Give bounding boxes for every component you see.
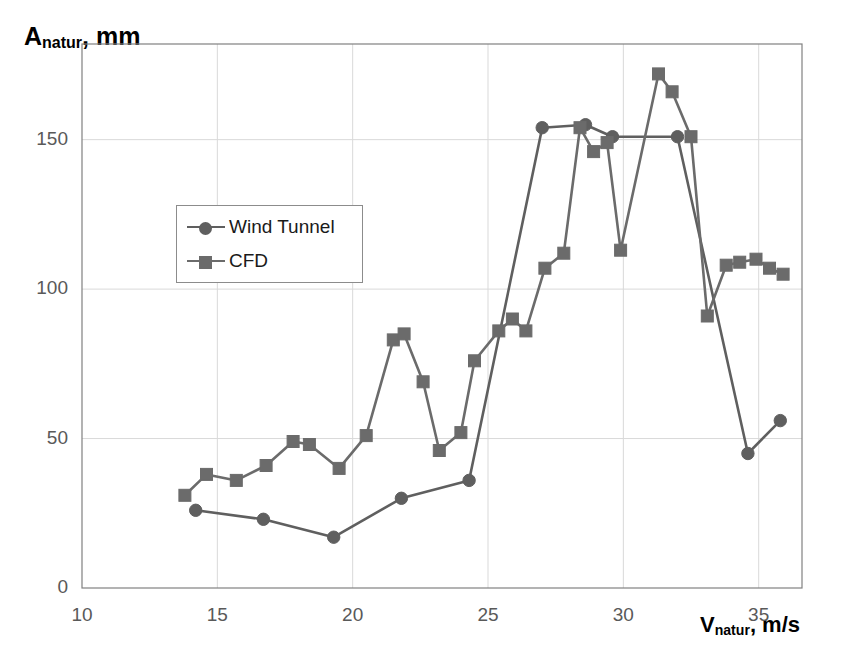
- plot-frame: [82, 44, 802, 588]
- data-point-marker: [333, 462, 345, 474]
- chart-container: Anatur, mm Vnatur, m/s 05010015010152025…: [0, 0, 849, 664]
- data-point-marker: [303, 439, 315, 451]
- data-point-marker: [539, 262, 551, 274]
- data-point-marker: [774, 414, 786, 426]
- data-point-marker: [666, 86, 678, 98]
- data-point-marker: [201, 468, 213, 480]
- x-axis-tick-label: 25: [448, 604, 528, 626]
- chart-legend: Wind Tunnel CFD: [176, 205, 363, 283]
- data-point-marker: [653, 68, 665, 80]
- data-point-marker: [734, 256, 746, 268]
- x-axis-tick-label: 30: [583, 604, 663, 626]
- data-point-marker: [588, 146, 600, 158]
- data-point-marker: [750, 253, 762, 265]
- data-point-marker: [455, 427, 467, 439]
- data-point-marker: [469, 355, 481, 367]
- data-point-marker: [190, 504, 202, 516]
- legend-item-cfd: CFD: [187, 248, 268, 274]
- data-point-marker: [720, 259, 732, 271]
- data-point-marker: [536, 122, 548, 134]
- data-point-marker: [764, 262, 776, 274]
- legend-label: Wind Tunnel: [229, 216, 335, 238]
- y-axis-tick-label: 0: [0, 576, 68, 598]
- x-axis-tick-label: 35: [719, 604, 799, 626]
- x-axis-tick-label: 15: [177, 604, 257, 626]
- data-point-marker: [433, 445, 445, 457]
- data-point-marker: [287, 436, 299, 448]
- data-point-marker: [615, 244, 627, 256]
- data-point-marker: [398, 328, 410, 340]
- data-point-marker: [257, 513, 269, 525]
- y-axis-tick-label: 150: [0, 128, 68, 150]
- y-axis-tick-label: 50: [0, 427, 68, 449]
- plot-area: [0, 0, 849, 664]
- data-point-marker: [230, 474, 242, 486]
- x-axis-tick-label: 10: [42, 604, 122, 626]
- data-point-marker: [387, 334, 399, 346]
- data-point-marker: [558, 247, 570, 259]
- data-point-marker: [777, 268, 789, 280]
- data-point-marker: [601, 137, 613, 149]
- data-point-marker: [260, 460, 272, 472]
- data-point-marker: [493, 325, 505, 337]
- data-point-marker: [417, 376, 429, 388]
- x-axis-tick-label: 20: [313, 604, 393, 626]
- data-point-marker: [742, 447, 754, 459]
- data-point-marker: [520, 325, 532, 337]
- legend-marker-circle-icon: [187, 219, 225, 235]
- data-point-marker: [701, 310, 713, 322]
- data-point-marker: [506, 313, 518, 325]
- y-axis-tick-label: 100: [0, 277, 68, 299]
- data-point-marker: [179, 489, 191, 501]
- data-point-marker: [574, 122, 586, 134]
- legend-label: CFD: [229, 250, 268, 272]
- data-point-marker: [395, 492, 407, 504]
- data-point-marker: [360, 430, 372, 442]
- data-point-marker: [463, 474, 475, 486]
- data-point-marker: [328, 531, 340, 543]
- data-point-marker: [671, 131, 683, 143]
- legend-marker-square-icon: [187, 253, 225, 269]
- data-point-marker: [685, 131, 697, 143]
- legend-item-wind-tunnel: Wind Tunnel: [187, 214, 335, 240]
